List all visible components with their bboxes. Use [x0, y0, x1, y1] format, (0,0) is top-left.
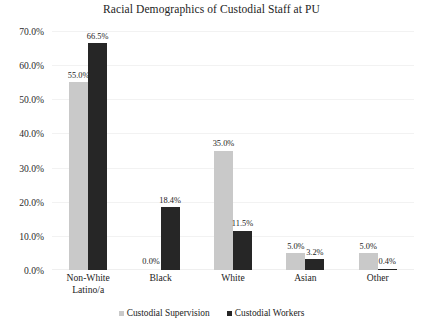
bar-value-label: 18.4%: [159, 197, 181, 205]
bar-slot: 5.0%: [359, 31, 378, 270]
bar-value-label: 35.0%: [213, 140, 235, 148]
bar-group: 55.0%66.5%: [52, 31, 124, 270]
legend-item-label: Custodial Workers: [235, 308, 305, 318]
y-axis-tick-label: 0.0%: [24, 265, 44, 276]
x-axis-category-label: Non-WhiteLatino/a: [52, 272, 124, 295]
x-axis-category-line: Black: [124, 272, 196, 284]
y-axis-tick-label: 20.0%: [19, 196, 44, 207]
legend-item-label: Custodial Supervision: [127, 308, 210, 318]
y-axis-tick-label: 30.0%: [19, 162, 44, 173]
y-axis-tick-label: 40.0%: [19, 128, 44, 139]
bar[interactable]: [305, 259, 324, 270]
bar[interactable]: [161, 207, 180, 270]
x-axis-labels: Non-WhiteLatino/aBlackWhiteAsianOther: [52, 272, 414, 300]
x-axis-category-line: White: [197, 272, 269, 284]
bar-value-label: 0.0%: [142, 258, 159, 266]
x-axis-category-line: Other: [342, 272, 414, 284]
legend-swatch-icon: [119, 311, 124, 316]
y-axis-tick-label: 50.0%: [19, 94, 44, 105]
bar[interactable]: [69, 82, 88, 270]
bar-slot: 0.4%: [378, 31, 397, 270]
x-axis-category-label: Black: [124, 272, 196, 284]
bar-slot: 18.4%: [161, 31, 180, 270]
y-axis-tick-label: 10.0%: [19, 230, 44, 241]
bar-value-label: 5.0%: [360, 243, 377, 251]
bar[interactable]: [233, 231, 252, 270]
bar-value-label: 55.0%: [68, 72, 90, 80]
chart-legend: Custodial SupervisionCustodial Workers: [0, 308, 423, 318]
bar-value-label: 0.4%: [379, 258, 396, 266]
x-axis-category-label: Other: [342, 272, 414, 284]
bar-slot: 5.0%: [286, 31, 305, 270]
legend-item[interactable]: Custodial Workers: [227, 308, 305, 318]
x-axis-category-line: Non-White: [52, 272, 124, 284]
x-axis-category-line: Asian: [269, 272, 341, 284]
chart-title: Racial Demographics of Custodial Staff a…: [0, 3, 423, 15]
bar-group: 0.0%18.4%: [124, 31, 196, 270]
y-axis: 70.0%60.0%50.0%40.0%30.0%20.0%10.0%0.0%: [0, 31, 48, 270]
y-axis-tick-label: 60.0%: [19, 60, 44, 71]
bar[interactable]: [214, 151, 233, 271]
bar-slot: 3.2%: [305, 31, 324, 270]
bar-slot: 11.5%: [233, 31, 252, 270]
bar-group: 5.0%3.2%: [269, 31, 341, 270]
legend-swatch-icon: [227, 311, 232, 316]
bar-value-label: 11.5%: [232, 220, 253, 228]
plot-area: 55.0%66.5%0.0%18.4%35.0%11.5%5.0%3.2%5.0…: [52, 31, 414, 270]
legend-item[interactable]: Custodial Supervision: [119, 308, 210, 318]
y-axis-tick-label: 70.0%: [19, 26, 44, 37]
bar[interactable]: [359, 253, 378, 270]
bar[interactable]: [88, 43, 107, 270]
bar-slot: 66.5%: [88, 31, 107, 270]
bar-slot: 0.0%: [142, 31, 161, 270]
bar[interactable]: [286, 253, 305, 270]
x-axis-category-line: Latino/a: [52, 284, 124, 296]
bar-chart: Racial Demographics of Custodial Staff a…: [0, 0, 423, 331]
bar-slot: 55.0%: [69, 31, 88, 270]
x-axis-category-label: Asian: [269, 272, 341, 284]
bar-value-label: 3.2%: [306, 249, 323, 257]
bar-slot: 35.0%: [214, 31, 233, 270]
bar[interactable]: [378, 269, 397, 270]
bar-group: 5.0%0.4%: [342, 31, 414, 270]
bar-value-label: 66.5%: [87, 33, 109, 41]
bar-value-label: 5.0%: [287, 243, 304, 251]
bar-group: 35.0%11.5%: [197, 31, 269, 270]
x-axis-category-label: White: [197, 272, 269, 284]
